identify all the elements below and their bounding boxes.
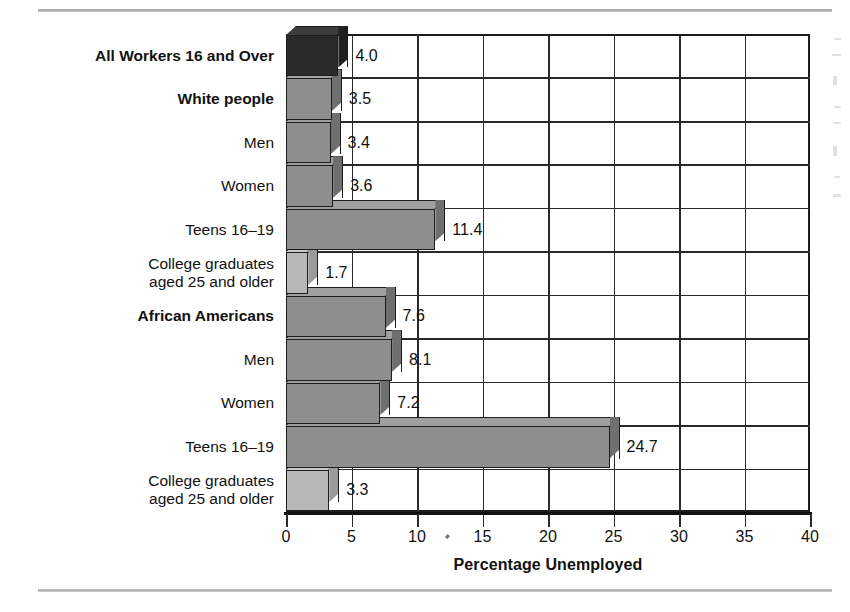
bar-front-face xyxy=(286,426,610,467)
bar-side-outline xyxy=(610,417,620,458)
bar-side-outline xyxy=(331,113,341,154)
x-axis-tick xyxy=(286,514,288,527)
bar-value-label: 3.6 xyxy=(350,178,372,194)
x-axis-tick-label: 40 xyxy=(801,528,819,546)
category-label: Teens 16–19 xyxy=(185,221,274,238)
bar-side-outline xyxy=(386,287,396,328)
scan-speck-artifact xyxy=(445,534,450,539)
bar-value-label: 4.0 xyxy=(355,48,377,64)
category-label-line: Men xyxy=(244,351,274,368)
x-axis-tick xyxy=(745,514,747,527)
unemployment-bar-chart: All Workers 16 and OverWhite peopleMenWo… xyxy=(0,0,850,612)
category-label-line: All Workers 16 and Over xyxy=(95,47,274,64)
bar-value-label: 3.3 xyxy=(346,482,368,498)
category-label: Women xyxy=(221,177,274,194)
x-axis-tick xyxy=(483,514,485,527)
category-label: Teens 16–19 xyxy=(185,438,274,455)
bar-front-face xyxy=(286,339,392,380)
bar-value-label: 7.2 xyxy=(397,395,419,411)
bar-series: 4.03.53.43.611.41.77.68.17.224.73.3 xyxy=(286,34,810,512)
category-label: African Americans xyxy=(138,307,274,324)
x-axis-tick-label: 25 xyxy=(605,528,623,546)
bar-value-label: 1.7 xyxy=(325,265,347,281)
x-axis-tick-label: 35 xyxy=(736,528,754,546)
bar-value-label: 24.7 xyxy=(627,439,658,455)
bar-3d xyxy=(286,26,338,67)
bar-front-face xyxy=(286,296,386,337)
x-axis-tick-label: 5 xyxy=(347,528,356,546)
bar-side-outline xyxy=(435,200,445,241)
gridline-tick-stub xyxy=(352,253,354,266)
category-label: Women xyxy=(221,394,274,411)
bar-front-face xyxy=(286,470,329,511)
figure-page: All Workers 16 and OverWhite peopleMenWo… xyxy=(0,0,850,612)
x-axis-tick xyxy=(679,514,681,527)
bar-value-label: 3.5 xyxy=(349,91,371,107)
bar-side-outline xyxy=(333,156,343,197)
category-label-line: Teens 16–19 xyxy=(185,438,274,455)
category-label-line: Men xyxy=(244,134,274,151)
category-label: White people xyxy=(178,90,274,107)
category-label: College graduatesaged 25 and older xyxy=(148,255,274,290)
category-label-line: African Americans xyxy=(138,307,274,324)
x-axis-tick xyxy=(417,514,419,527)
bar-front-face xyxy=(286,383,380,424)
x-axis-tick-label: 15 xyxy=(474,528,492,546)
bar-value-label: 8.1 xyxy=(409,352,431,368)
bar-front-face xyxy=(286,78,332,119)
category-label-line: Teens 16–19 xyxy=(185,221,274,238)
category-label-line: College graduates xyxy=(148,255,274,272)
category-label-line: Women xyxy=(221,394,274,411)
x-axis-tick xyxy=(352,514,354,527)
gridline-tick-stub xyxy=(352,36,354,49)
bar-front-face xyxy=(286,122,331,163)
category-label-line: White people xyxy=(178,90,274,107)
bar-value-label: 11.4 xyxy=(452,222,482,238)
bar-side-outline xyxy=(392,330,402,371)
x-axis-tick xyxy=(614,514,616,527)
x-axis-tick-label: 30 xyxy=(670,528,688,546)
bar-front-face xyxy=(286,252,308,293)
category-label-line: aged 25 and older xyxy=(149,490,274,507)
x-axis: Percentage Unemployed 0510152025303540 xyxy=(286,512,810,582)
x-axis-tick-label: 20 xyxy=(539,528,557,546)
bar-value-label: 3.4 xyxy=(348,135,370,151)
bar-front-face xyxy=(286,35,338,76)
category-label: All Workers 16 and Over xyxy=(95,47,274,64)
category-label: College graduatesaged 25 and older xyxy=(148,472,274,507)
bar-side-outline xyxy=(338,26,348,67)
x-axis-tick-label: 0 xyxy=(282,528,291,546)
plot-area: 4.03.53.43.611.41.77.68.17.224.73.3 xyxy=(286,34,810,512)
x-axis-tick xyxy=(810,514,812,527)
category-label-line: aged 25 and older xyxy=(149,273,274,290)
bar-value-label: 7.6 xyxy=(403,308,425,324)
category-label-line: College graduates xyxy=(148,472,274,489)
category-label-column: All Workers 16 and OverWhite peopleMenWo… xyxy=(34,34,274,512)
x-axis-title: Percentage Unemployed xyxy=(286,556,810,574)
bar-front-face xyxy=(286,165,333,206)
category-label: Men xyxy=(244,134,274,151)
bar-front-face xyxy=(286,209,435,250)
x-axis-tick-label: 10 xyxy=(408,528,426,546)
x-axis-tick xyxy=(548,514,550,527)
category-label: Men xyxy=(244,351,274,368)
category-label-line: Women xyxy=(221,177,274,194)
